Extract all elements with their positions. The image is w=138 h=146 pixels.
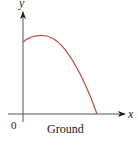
x-axis-label: x (127, 107, 134, 121)
trajectory-curve (23, 35, 97, 114)
y-axis-label: y (18, 0, 25, 10)
trajectory-diagram: y x 0 Ground (0, 0, 138, 146)
origin-label: 0 (11, 119, 17, 131)
ground-label: Ground (47, 122, 84, 136)
